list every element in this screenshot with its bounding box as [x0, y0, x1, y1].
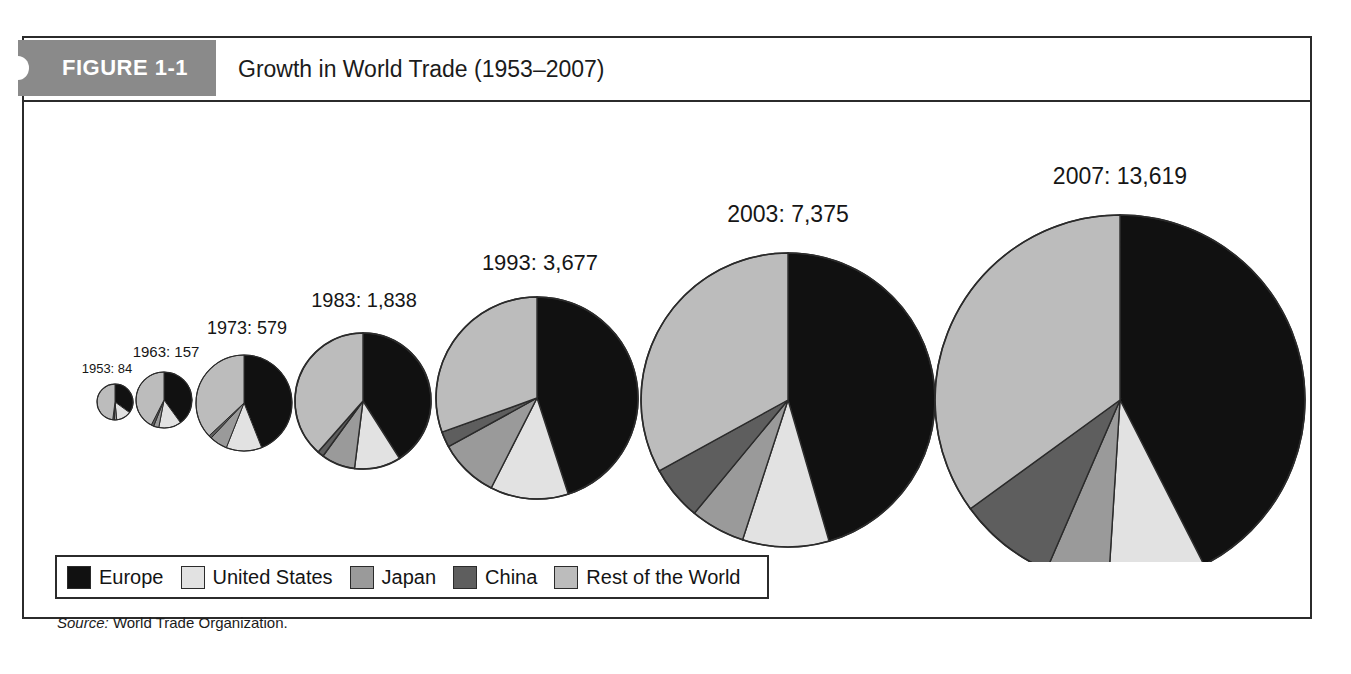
- pie-1983: 1983: 1,838: [295, 289, 431, 469]
- legend-label: China: [485, 566, 537, 589]
- legend-swatch-icon: [181, 566, 205, 589]
- figure-header: FIGURE 1-1 Growth in World Trade (1953–2…: [24, 38, 1310, 102]
- source-text: World Trade Organization.: [113, 614, 288, 631]
- pie-value-label: 1993: 3,677: [482, 250, 598, 275]
- pie-value-label: 2003: 7,375: [727, 201, 849, 227]
- pie-value-label: 1953: 84: [82, 361, 133, 376]
- pie-1963: 1963: 157: [133, 343, 200, 428]
- source-note: Source: World Trade Organization.: [57, 614, 288, 631]
- chart-legend: EuropeUnited StatesJapanChinaRest of the…: [55, 555, 769, 599]
- figure-number-tab: FIGURE 1-1: [18, 40, 216, 96]
- legend-swatch-icon: [453, 566, 477, 589]
- legend-label: Europe: [99, 566, 164, 589]
- legend-swatch-icon: [67, 566, 91, 589]
- figure-title: Growth in World Trade (1953–2007): [238, 38, 605, 100]
- pie-1993: 1993: 3,677: [436, 250, 638, 499]
- legend-item: China: [453, 566, 537, 589]
- pie-slice-rest-of-the-world: [97, 384, 115, 420]
- legend-label: United States: [213, 566, 333, 589]
- legend-item: United States: [181, 566, 333, 589]
- pie-2003: 2003: 7,375: [641, 201, 935, 547]
- pie-1973: 1973: 579: [196, 318, 292, 451]
- pie-value-label: 1963: 157: [133, 343, 200, 360]
- legend-item: Japan: [350, 566, 437, 589]
- pie-value-label: 1983: 1,838: [311, 289, 417, 311]
- legend-label: Rest of the World: [586, 566, 740, 589]
- chart-plot-area: 1953: 841963: 1571973: 5791983: 1,838199…: [24, 102, 1310, 619]
- pie-chart-canvas: 1953: 841963: 1571973: 5791983: 1,838199…: [24, 102, 1310, 562]
- legend-item: Rest of the World: [554, 566, 740, 589]
- pie-2007: 2007: 13,619: [935, 163, 1305, 562]
- pie-1953: 1953: 84: [82, 361, 133, 420]
- figure-number-label: FIGURE 1-1: [62, 55, 188, 81]
- legend-swatch-icon: [350, 566, 374, 589]
- legend-label: Japan: [382, 566, 437, 589]
- legend-item: Europe: [67, 566, 164, 589]
- figure-frame: FIGURE 1-1 Growth in World Trade (1953–2…: [22, 36, 1312, 619]
- tab-notch-shape: [7, 56, 29, 80]
- pie-value-label: 1973: 579: [207, 318, 287, 338]
- pie-value-label: 2007: 13,619: [1053, 163, 1187, 189]
- source-label: Source:: [57, 614, 109, 631]
- legend-swatch-icon: [554, 566, 578, 589]
